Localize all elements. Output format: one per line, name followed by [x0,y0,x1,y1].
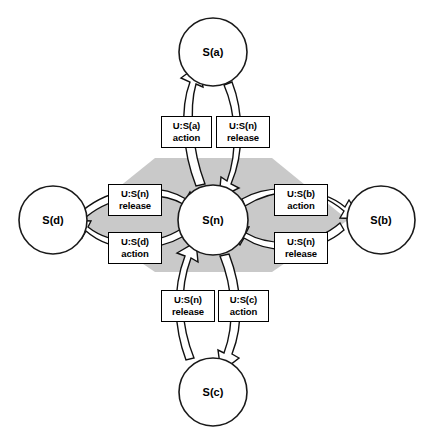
transition-label-n-to-d[interactable]: U:S(d) action [108,232,162,264]
transition-label-c-to-n[interactable]: U:S(n) release [161,290,215,322]
transition-label-b-to-n-line2: release [285,248,317,260]
transition-label-a-to-n-line1: U:S(n) [229,120,257,132]
transition-label-n-to-b-line1: U:S(b) [287,188,315,200]
node-s-n-label: S(n) [202,214,224,226]
transition-label-d-to-n[interactable]: U:S(n) release [108,184,162,216]
node-s-d[interactable]: S(d) [19,186,87,254]
transition-label-d-to-n-line1: U:S(n) [121,188,149,200]
node-s-c[interactable]: S(c) [179,358,247,426]
transition-label-d-to-n-line2: release [119,200,151,212]
transition-label-n-to-a-line1: U:S(a) [173,120,200,132]
node-s-a[interactable]: S(a) [179,18,247,86]
transition-label-n-to-a-line2: action [173,132,200,144]
node-s-b[interactable]: S(b) [347,186,415,254]
transition-label-n-to-b-line2: action [287,200,314,212]
transition-label-n-to-a[interactable]: U:S(a) action [161,116,212,148]
diagram-svg: S(a) S(b) S(c) S(d) S(n) [0,0,426,439]
state-diagram-canvas: S(a) S(b) S(c) S(d) S(n) U:S(a) action U… [0,0,426,439]
transition-label-n-to-b[interactable]: U:S(b) action [274,184,328,216]
transition-label-a-to-n[interactable]: U:S(n) release [216,116,270,148]
transition-label-c-to-n-line2: release [172,306,204,318]
transition-label-n-to-c-line2: action [230,306,257,318]
node-s-a-label: S(a) [203,46,224,58]
transition-label-n-to-d-line2: action [121,248,148,260]
transition-label-c-to-n-line1: U:S(n) [174,294,202,306]
transition-label-n-to-c[interactable]: U:S(c) action [218,290,269,322]
transition-label-n-to-d-line1: U:S(d) [121,236,149,248]
transition-label-n-to-c-line1: U:S(c) [230,294,257,306]
transition-label-b-to-n[interactable]: U:S(n) release [274,232,328,264]
node-s-b-label: S(b) [370,214,392,226]
node-s-c-label: S(c) [203,386,224,398]
transition-label-a-to-n-line2: release [227,132,259,144]
transition-label-b-to-n-line1: U:S(n) [287,236,315,248]
node-s-d-label: S(d) [42,214,64,226]
node-s-n[interactable]: S(n) [178,185,248,255]
